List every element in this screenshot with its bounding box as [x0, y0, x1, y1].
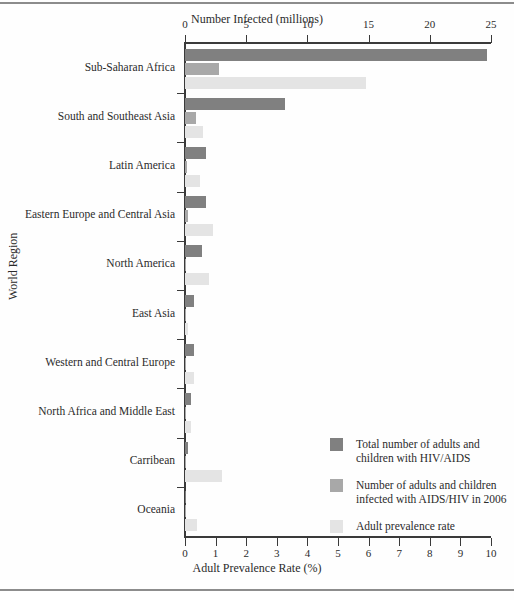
tick-mark-bottom: [185, 538, 186, 546]
bar-1-5: [185, 309, 186, 321]
y-tick-mark: [177, 142, 185, 143]
tick-mark-top: [185, 35, 186, 43]
legend-item: Number of adults and children infected w…: [330, 478, 510, 506]
tick-label-top: 25: [486, 18, 497, 30]
bar-2-3: [185, 224, 213, 236]
bar-2-4: [185, 273, 209, 285]
tick-label-top: 15: [363, 18, 374, 30]
top-axis-line: [184, 42, 491, 44]
bar-2-7: [185, 421, 191, 433]
y-tick-mark: [177, 487, 185, 488]
tick-label-top: 0: [182, 18, 188, 30]
category-label: South and Southeast Asia: [58, 110, 175, 122]
tick-mark-bottom: [277, 538, 278, 546]
bar-2-0: [185, 77, 366, 89]
tick-mark-top: [307, 35, 308, 43]
bar-1-9: [185, 505, 186, 517]
category-label: North Africa and Middle East: [38, 405, 175, 417]
y-tick-mark: [177, 290, 185, 291]
tick-mark-bottom: [246, 538, 247, 546]
legend-label: Total number of adults and children with…: [356, 437, 510, 465]
category-label: Western and Central Europe: [45, 356, 175, 368]
bar-0-3: [185, 196, 206, 208]
legend-swatch: [330, 520, 343, 533]
category-label: East Asia: [132, 307, 175, 319]
bar-1-4: [185, 259, 186, 271]
bar-2-2: [185, 175, 200, 187]
legend-item: Total number of adults and children with…: [330, 437, 510, 465]
bar-2-9: [185, 519, 197, 531]
bar-1-1: [185, 112, 196, 124]
bar-2-5: [185, 323, 188, 335]
legend-item: Adult prevalence rate: [330, 519, 510, 545]
bar-0-2: [185, 147, 206, 159]
tick-label-bottom: 2: [243, 547, 249, 559]
y-tick-mark: [177, 438, 185, 439]
bar-1-7: [185, 407, 186, 419]
bottom-axis-title: Adult Prevalence Rate (%): [0, 561, 514, 576]
tick-label-top: 20: [424, 18, 435, 30]
bar-1-6: [185, 358, 186, 370]
bar-0-9: [185, 491, 186, 503]
legend-label: Adult prevalence rate: [356, 519, 510, 533]
bar-0-4: [185, 245, 202, 257]
top-divider-rule: [0, 2, 514, 4]
bar-2-6: [185, 372, 194, 384]
bar-1-8: [185, 456, 186, 468]
bar-1-3: [185, 210, 188, 222]
tick-mark-bottom: [216, 538, 217, 546]
figure-canvas: Number Infected (millions) Adult Prevale…: [0, 0, 514, 600]
bar-0-1: [185, 98, 285, 110]
tick-mark-top: [430, 35, 431, 43]
y-tick-mark: [177, 93, 185, 94]
category-label: Latin America: [109, 159, 175, 171]
bar-0-5: [185, 295, 194, 307]
bar-2-1: [185, 126, 203, 138]
bar-0-0: [185, 49, 487, 61]
category-label: Eastern Europe and Central Asia: [25, 208, 175, 220]
tick-label-top: 5: [243, 18, 249, 30]
tick-label-top: 10: [302, 18, 313, 30]
tick-mark-bottom: [307, 538, 308, 546]
tick-label-bottom: 4: [305, 547, 311, 559]
bar-1-2: [185, 161, 187, 173]
bottom-divider-rule: [0, 589, 514, 591]
y-axis-title: World Region: [6, 233, 21, 300]
category-label: Oceania: [137, 503, 175, 515]
y-tick-mark: [177, 388, 185, 389]
y-tick-mark: [177, 192, 185, 193]
tick-label-bottom: 3: [274, 547, 280, 559]
legend-label: Number of adults and children infected w…: [356, 478, 510, 506]
legend-swatch: [330, 479, 343, 492]
y-tick-mark: [177, 339, 185, 340]
tick-label-bottom: 1: [213, 547, 219, 559]
bar-1-0: [185, 63, 219, 75]
tick-mark-top: [491, 35, 492, 43]
category-label: Sub-Saharan Africa: [85, 61, 175, 73]
bar-2-8: [185, 470, 222, 482]
bar-0-7: [185, 393, 191, 405]
category-label: Carribean: [130, 454, 175, 466]
y-tick-mark: [177, 241, 185, 242]
tick-label-bottom: 0: [182, 547, 188, 559]
tick-mark-top: [369, 35, 370, 43]
chart-legend: Total number of adults and children with…: [330, 437, 510, 558]
category-label: North America: [106, 257, 175, 269]
bar-0-8: [185, 442, 188, 454]
tick-mark-top: [246, 35, 247, 43]
top-axis-title: Number Infected (millions): [0, 12, 514, 27]
bar-0-6: [185, 344, 194, 356]
legend-swatch: [330, 438, 343, 451]
